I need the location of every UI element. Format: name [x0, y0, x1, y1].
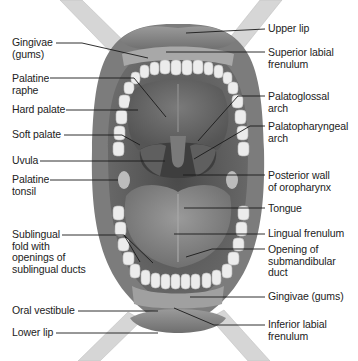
tonsil-right — [226, 171, 238, 189]
label-palatine-tonsil: Palatine tonsil — [12, 174, 49, 197]
label-tongue: Tongue — [268, 203, 302, 215]
label-superior-labial-frenulum: Superior labial frenulum — [268, 47, 334, 70]
label-gingivae-upper: Gingivae (gums) — [12, 37, 53, 60]
label-soft-palate: Soft palate — [12, 129, 61, 141]
tonsil-left — [118, 171, 130, 189]
label-sublingual-fold: Sublingual fold with openings of subling… — [12, 229, 86, 275]
label-oral-vestibule: Oral vestibule — [12, 305, 75, 317]
label-posterior-wall-oropharynx: Posterior wall of oropharynx — [268, 170, 331, 193]
lower-lip-shape — [130, 309, 226, 333]
label-palatopharyngeal-arch: Palatopharyngeal arch — [268, 121, 348, 144]
label-lower-lip: Lower lip — [12, 327, 53, 339]
label-gingivae-lower: Gingivae (gums) — [268, 291, 344, 303]
label-inferior-labial-frenulum: Inferior labial frenulum — [268, 319, 327, 342]
label-opening-submandibular-duct: Opening of submandibular duct — [268, 244, 336, 279]
label-palatoglossal-arch: Palatoglossal arch — [268, 91, 329, 114]
label-lingual-frenulum: Lingual frenulum — [268, 228, 344, 240]
oral-cavity-diagram: Gingivae (gums) Palatine raphe Hard pala… — [0, 0, 358, 361]
label-hard-palate: Hard palate — [12, 104, 65, 116]
label-uvula: Uvula — [12, 155, 38, 167]
label-palatine-raphe: Palatine raphe — [12, 73, 49, 96]
label-upper-lip: Upper lip — [268, 23, 309, 35]
